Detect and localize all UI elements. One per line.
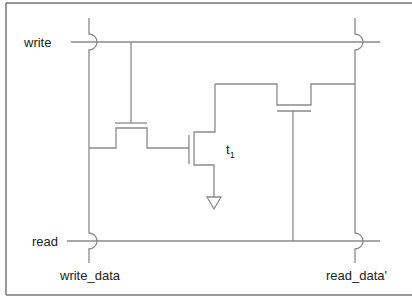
write-data-label: write_data — [59, 268, 121, 283]
write-label: write — [23, 35, 51, 50]
diagram-frame — [6, 3, 412, 295]
ground-icon — [207, 197, 221, 209]
t1-label: t1 — [226, 142, 235, 160]
storage-transistor-t1 — [189, 84, 221, 209]
write-transistor — [89, 42, 189, 148]
write-data-line — [89, 18, 97, 263]
read-data-label: read_data' — [326, 268, 387, 283]
read-transistor — [215, 84, 355, 241]
read-data-line — [355, 18, 363, 263]
read-label: read — [32, 234, 58, 249]
dram-cell-diagram: write read write_data read_data' t1 — [0, 0, 412, 297]
